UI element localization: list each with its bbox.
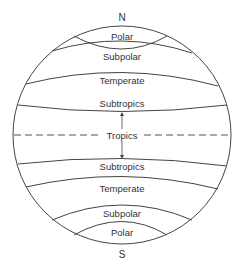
zone-south-temperate: Temperate [100, 183, 145, 194]
zone-south-polar: Polar [111, 227, 133, 238]
zone-south-subpolar: Subpolar [103, 208, 141, 219]
zone-north-polar: Polar [111, 31, 133, 42]
arrow-up-icon [120, 112, 124, 116]
south-pole-label: S [119, 249, 126, 260]
climate-zone-globe: N Polar Subpolar Temperate Subtropics Tr… [0, 0, 241, 271]
zone-south-subtropics: Subtropics [100, 161, 145, 172]
zone-north-subtropics: Subtropics [100, 98, 145, 109]
zone-north-subpolar: Subpolar [103, 51, 141, 62]
zone-tropics: Tropics [107, 130, 138, 141]
north-pole-label: N [118, 12, 125, 23]
zone-north-temperate: Temperate [100, 75, 145, 86]
